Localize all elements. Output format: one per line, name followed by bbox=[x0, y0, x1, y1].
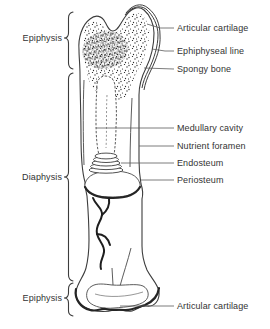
label-epiphysis-distal: Epiphysis bbox=[23, 292, 62, 304]
leader-spongy-bone bbox=[144, 68, 174, 69]
label-epiphyseal-line: Ephiphyseal line bbox=[177, 45, 244, 57]
label-endosteum: Endosteum bbox=[177, 157, 223, 169]
brace-diaphysis bbox=[64, 73, 73, 281]
periosteum-collar bbox=[85, 171, 140, 198]
label-articular-cartilage-bottom: Articular cartilage bbox=[177, 300, 248, 312]
bone-diagram: Epiphysis Diaphysis Epiphysis Articular … bbox=[0, 0, 270, 329]
region-braces bbox=[64, 12, 73, 316]
leader-epiphyseal-line bbox=[152, 49, 174, 51]
label-medullary-cavity: Medullary cavity bbox=[177, 122, 243, 134]
label-periosteum: Periosteum bbox=[177, 174, 224, 186]
brace-epiphysis-distal bbox=[64, 283, 73, 316]
label-epiphysis-proximal: Epiphysis bbox=[23, 32, 62, 44]
label-articular-cartilage-top: Articular cartilage bbox=[177, 22, 248, 34]
label-diaphysis: Diaphysis bbox=[22, 171, 62, 183]
brace-epiphysis-proximal bbox=[64, 12, 73, 69]
label-spongy-bone: Spongy bone bbox=[177, 63, 231, 75]
label-nutrient-foramen: Nutrient foramen bbox=[177, 140, 246, 152]
